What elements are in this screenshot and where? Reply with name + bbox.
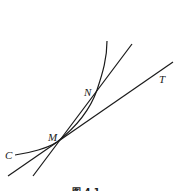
tangent-line-mt <box>8 62 173 176</box>
label-t: T <box>159 73 166 85</box>
label-n: N <box>83 86 92 98</box>
label-c: C <box>5 149 13 161</box>
label-m: M <box>47 131 58 143</box>
tangent-secant-diagram: C M N T 图 4.1 <box>0 0 181 191</box>
secant-line-mn <box>33 44 132 176</box>
figure-caption: 图 4.1 <box>72 187 100 191</box>
